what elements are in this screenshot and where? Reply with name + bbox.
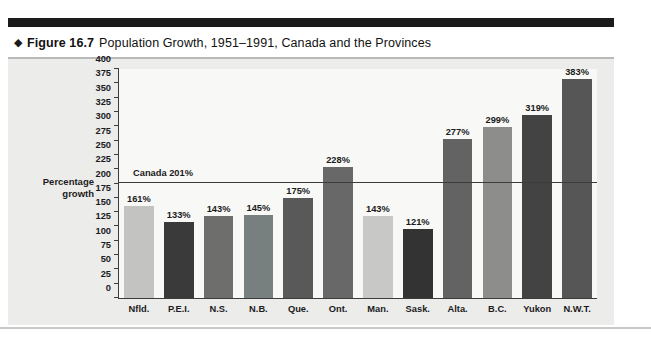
y-axis-tick-label: 400: [95, 54, 111, 64]
x-axis-tick-label: Man.: [367, 304, 388, 314]
x-axis-tick-label: Sask.: [406, 304, 430, 314]
bar-value-label: 175%: [286, 186, 310, 196]
y-axis-tick: [114, 254, 119, 255]
x-axis-tick-label: N.B.: [249, 304, 268, 314]
bar-value-label: 277%: [446, 127, 470, 137]
y-axis-tick: [114, 168, 119, 169]
y-axis-tick-label: 325: [95, 97, 111, 107]
bar-value-label: 143%: [207, 204, 231, 214]
bar-value-label: 383%: [565, 67, 589, 77]
y-axis-title-line2: growth: [18, 188, 94, 200]
y-axis-tick: [114, 140, 119, 141]
bar-value-label: 299%: [486, 115, 510, 125]
y-axis-tick-label: 250: [95, 140, 111, 150]
bar-value-label: 121%: [406, 217, 430, 227]
y-axis-tick: [114, 240, 119, 241]
y-axis-tick: [114, 111, 119, 112]
bar-value-label: 228%: [326, 155, 350, 165]
bar-man: 143%Man.: [363, 216, 393, 298]
y-axis-tick-label: 150: [95, 197, 111, 207]
y-axis-tick: [114, 154, 119, 155]
y-axis-tick: [114, 297, 119, 298]
y-axis-tick-label: 125: [95, 211, 111, 221]
canada-reference-line: [119, 182, 597, 183]
chart-plot-area: 0255075100125150175200225250275300325350…: [118, 69, 597, 299]
bar-pei: 133%P.E.I.: [164, 222, 194, 298]
y-axis-tick-label: 100: [95, 226, 111, 236]
x-axis-tick-label: P.E.I.: [168, 304, 190, 314]
y-axis-title: Percentage growth: [18, 176, 94, 199]
y-axis-tick-label: 225: [95, 154, 111, 164]
bar-sask: 121%Sask.: [403, 229, 433, 298]
bar-ont: 228%Ont.: [323, 167, 353, 298]
y-axis-tick-label: 375: [95, 68, 111, 78]
y-axis-tick: [114, 197, 119, 198]
y-axis-tick: [114, 225, 119, 226]
x-axis-tick-label: N.W.T.: [563, 304, 590, 314]
y-axis-tick-label: 25: [101, 269, 111, 279]
bar-nfld: 161%Nfld.: [124, 206, 154, 298]
y-axis-title-line1: Percentage: [18, 176, 94, 188]
x-axis-tick-label: Ont.: [329, 304, 348, 314]
bar-alta: 277%Alta.: [443, 139, 473, 298]
bar-value-label: 161%: [127, 194, 151, 204]
canada-reference-label: Canada 201%: [133, 168, 193, 178]
y-axis-tick: [114, 97, 119, 98]
x-axis-tick-label: Alta.: [447, 304, 467, 314]
figure-number-label: Figure 16.7: [27, 36, 94, 50]
x-axis-tick-label: Nfld.: [129, 304, 150, 314]
y-axis-tick: [114, 268, 119, 269]
diamond-bullet-icon: ◆: [14, 37, 22, 48]
figure-title: Population Growth, 1951–1991, Canada and…: [99, 36, 431, 50]
x-axis-tick-label: Yukon: [523, 304, 551, 314]
bar-yukon: 319%Yukon: [522, 115, 552, 298]
bar-value-label: 143%: [366, 204, 390, 214]
y-axis-tick-label: 200: [95, 169, 111, 179]
figure-caption: ◆ Figure 16.7 Population Growth, 1951–19…: [8, 30, 614, 56]
y-axis-tick-label: 0: [106, 283, 111, 293]
bar-value-label: 145%: [247, 203, 271, 213]
x-axis-tick-label: B.C.: [488, 304, 507, 314]
y-axis-tick-label: 50: [101, 254, 111, 264]
x-axis-tick-label: N.S.: [210, 304, 228, 314]
x-axis-tick-label: Que.: [288, 304, 309, 314]
bar-ns: 143%N.S.: [204, 216, 234, 298]
y-axis-tick-label: 275: [95, 126, 111, 136]
figure-top-rule: [8, 18, 614, 27]
bar-nb: 145%N.B.: [244, 215, 274, 298]
bar-value-label: 319%: [525, 103, 549, 113]
bar-bc: 299%B.C.: [483, 127, 513, 298]
y-axis-tick: [114, 283, 119, 284]
y-axis-tick-label: 350: [95, 83, 111, 93]
y-axis-tick: [114, 68, 119, 69]
bar-nwt: 383%N.W.T.: [562, 79, 592, 298]
bar-que: 175%Que.: [283, 198, 313, 298]
y-axis-tick-label: 175: [95, 183, 111, 193]
page-bottom-rule: [0, 327, 651, 329]
y-axis-tick-label: 300: [95, 111, 111, 121]
y-axis-tick-label: 75: [101, 240, 111, 250]
y-axis-tick: [114, 125, 119, 126]
bar-value-label: 133%: [167, 210, 191, 220]
y-axis-tick: [114, 82, 119, 83]
y-axis-tick: [114, 211, 119, 212]
